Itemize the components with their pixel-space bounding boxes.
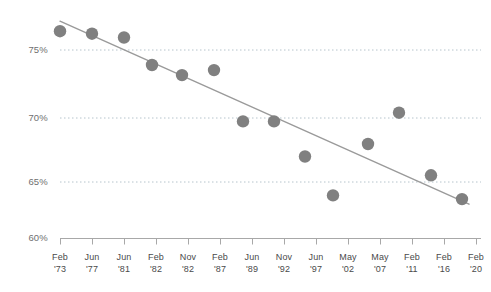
x-axis-tick-month: Feb: [43, 252, 77, 264]
x-axis-tick-month: Jun: [107, 252, 141, 264]
x-axis-tick-year: '82: [139, 264, 173, 276]
x-axis: [60, 239, 481, 245]
x-axis-tick-6: Jun '89: [235, 252, 269, 275]
x-axis-tick-year: '87: [203, 264, 237, 276]
x-axis-tick-5: Feb '87: [203, 252, 237, 275]
data-points: [54, 25, 468, 205]
x-axis-tick-8: Jun '97: [299, 252, 333, 275]
x-axis-tick-month: Jun: [75, 252, 109, 264]
data-point[interactable]: [237, 115, 249, 127]
x-axis-tick-4: Nov '82: [171, 252, 205, 275]
data-point[interactable]: [456, 193, 468, 205]
x-axis-tick-month: Feb: [395, 252, 429, 264]
x-axis-tick-month: Feb: [203, 252, 237, 264]
data-point[interactable]: [86, 28, 98, 40]
x-axis-tick-year: '16: [427, 264, 461, 276]
x-axis-tick-7: Nov '92: [267, 252, 301, 275]
x-axis-tick-month: Nov: [267, 252, 301, 264]
x-axis-tick-month: Feb: [139, 252, 173, 264]
data-point[interactable]: [393, 107, 405, 119]
x-axis-tick-month: Feb: [427, 252, 461, 264]
x-axis-tick-year: '92: [267, 264, 301, 276]
data-point[interactable]: [146, 59, 158, 71]
x-axis-tick-year: '97: [299, 264, 333, 276]
y-axis-label-75: 75%: [8, 44, 48, 55]
x-axis-tick-year: '07: [363, 264, 397, 276]
trendline: [60, 21, 469, 204]
axis-ticks: [61, 239, 477, 245]
data-point[interactable]: [118, 31, 130, 43]
data-point[interactable]: [425, 169, 437, 181]
x-axis-tick-13: Feb '20: [459, 252, 491, 275]
data-point[interactable]: [362, 138, 374, 150]
x-axis-tick-month: Jun: [235, 252, 269, 264]
y-axis-label-60: 60%: [8, 232, 48, 243]
x-axis-tick-0: Feb '73: [43, 252, 77, 275]
chart-container: 75% 70% 65% 60% Feb '73 Jun '77 Jun '81 …: [0, 0, 491, 292]
x-axis-tick-month: May: [331, 252, 365, 264]
x-axis-tick-year: '20: [459, 264, 491, 276]
x-axis-tick-11: Feb '11: [395, 252, 429, 275]
x-axis-tick-year: '89: [235, 264, 269, 276]
x-axis-tick-year: '77: [75, 264, 109, 276]
y-axis-label-70: 70%: [8, 112, 48, 123]
x-axis-tick-month: Feb: [459, 252, 491, 264]
chart-plot-area: [0, 0, 491, 292]
x-axis-tick-3: Feb '82: [139, 252, 173, 275]
y-axis-label-65: 65%: [8, 176, 48, 187]
data-point[interactable]: [208, 64, 220, 76]
x-axis-tick-month: Nov: [171, 252, 205, 264]
x-axis-tick-12: Feb '16: [427, 252, 461, 275]
x-axis-tick-month: May: [363, 252, 397, 264]
data-point[interactable]: [327, 189, 339, 201]
x-axis-tick-1: Jun '77: [75, 252, 109, 275]
x-axis-tick-9: May '02: [331, 252, 365, 275]
x-axis-tick-2: Jun '81: [107, 252, 141, 275]
x-axis-tick-year: '11: [395, 264, 429, 276]
x-axis-tick-year: '73: [43, 264, 77, 276]
x-axis-tick-year: '82: [171, 264, 205, 276]
x-axis-tick-year: '02: [331, 264, 365, 276]
data-point[interactable]: [299, 150, 311, 162]
data-point[interactable]: [54, 25, 66, 37]
data-point[interactable]: [176, 69, 188, 81]
x-axis-tick-month: Jun: [299, 252, 333, 264]
x-axis-tick-year: '81: [107, 264, 141, 276]
data-point[interactable]: [268, 115, 280, 127]
x-axis-tick-10: May '07: [363, 252, 397, 275]
